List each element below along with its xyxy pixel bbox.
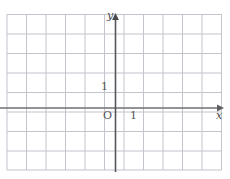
grid-lines [7,14,222,170]
origin-label: O [103,110,112,121]
y-axis-tick-label-1: 1 [101,81,108,92]
x-axis-label: x [216,110,222,121]
y-axis-label: y [107,10,113,21]
x-axis-tick-label-1: 1 [130,110,137,121]
grid-and-axes-svg [0,0,230,179]
coordinate-plane-figure: y x O 1 1 [0,0,230,179]
